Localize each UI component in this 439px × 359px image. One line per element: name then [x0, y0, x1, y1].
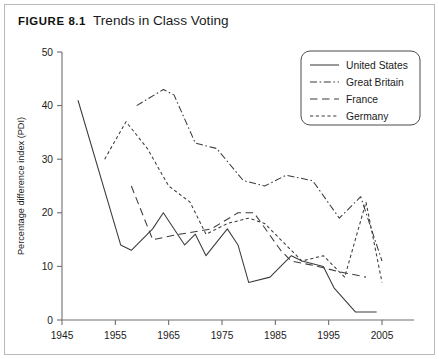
series-line	[105, 122, 382, 283]
y-axis-tick-label: 10	[42, 261, 54, 272]
x-axis-tick-label: 1975	[211, 330, 234, 341]
legend-item-label[interactable]: Germany	[346, 111, 389, 122]
legend-item-label[interactable]: United States	[346, 60, 408, 71]
chart-plot: 010203040501945195519651975198519952005P…	[0, 0, 439, 359]
y-axis-title: Percentage difference index (PDI)	[16, 117, 26, 255]
x-axis-tick-label: 1945	[51, 330, 74, 341]
figure-container: FIGURE 8.1Trends in Class Voting 0102030…	[0, 0, 439, 359]
y-axis-tick-label: 0	[47, 315, 53, 326]
x-axis-tick-label: 1965	[157, 330, 180, 341]
x-axis-tick-label: 1985	[264, 330, 287, 341]
legend-item-label[interactable]: Great Britain	[346, 77, 404, 88]
x-axis-tick-label: 1995	[317, 330, 340, 341]
chart-legend[interactable]: United StatesGreat BritainFranceGermany	[301, 51, 420, 125]
legend-item-label[interactable]: France	[346, 94, 378, 105]
y-axis-tick-label: 40	[42, 100, 54, 111]
y-axis-tick-label: 20	[42, 207, 54, 218]
y-axis-tick-label: 30	[42, 154, 54, 165]
series-line	[78, 100, 377, 312]
x-axis-tick-label: 1955	[104, 330, 127, 341]
y-axis-tick-label: 50	[42, 47, 54, 58]
x-axis-tick-label: 2005	[371, 330, 394, 341]
